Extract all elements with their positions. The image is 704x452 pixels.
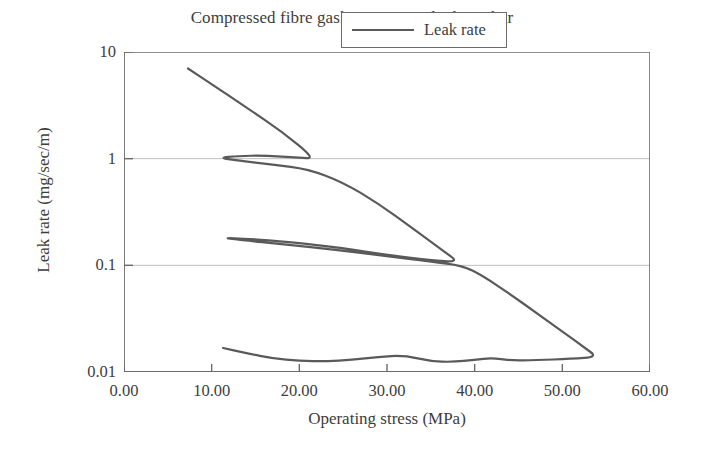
legend-label-leak-rate: Leak rate [424, 20, 486, 40]
x-axis-ticks [124, 364, 650, 372]
x-axis-title: Operating stress (MPa) [124, 409, 650, 429]
plot-svg [124, 52, 650, 372]
x-tick-label-20: 20.00 [281, 381, 318, 401]
series-line-leak-rate [188, 69, 593, 362]
y-tick-label-10: 10 [100, 42, 117, 62]
legend-line-swatch-leak-rate [352, 29, 414, 31]
x-axis-tick-labels: 0.00 10.00 20.00 30.00 40.00 50.00 60.00 [124, 381, 650, 405]
axis-frame [124, 52, 650, 372]
x-tick-label-30: 30.00 [368, 381, 405, 401]
y-axis-title: Leak rate (mg/sec/m) [34, 70, 54, 330]
x-tick-label-60: 60.00 [631, 381, 668, 401]
y-axis-ticks [124, 52, 133, 372]
data-series-layer [188, 69, 593, 362]
x-tick-label-50: 50.00 [544, 381, 581, 401]
gridlines [124, 159, 650, 266]
chart-figure: Compressed fibre gasket, 1.5 mm thick, 2… [0, 0, 704, 452]
y-tick-label-0.1: 0.1 [95, 255, 116, 275]
x-tick-label-40: 40.00 [456, 381, 493, 401]
x-tick-label-10: 10.00 [193, 381, 230, 401]
plot-area [124, 52, 650, 372]
legend[interactable]: Leak rate [341, 12, 507, 48]
y-tick-label-0.01: 0.01 [87, 362, 116, 382]
y-tick-label-1: 1 [108, 149, 116, 169]
y-axis-tick-labels: 10 1 0.1 0.01 [58, 52, 116, 372]
x-tick-label-0: 0.00 [110, 381, 139, 401]
